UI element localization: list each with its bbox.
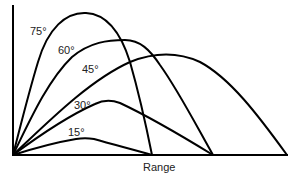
trajectory-45 <box>13 55 287 156</box>
x-axis-label: Range <box>143 161 175 173</box>
trajectory-diagram: 75° 60° 45° 30° 15° Range <box>0 0 300 178</box>
label-15: 15° <box>68 126 85 138</box>
label-45: 45° <box>82 63 99 75</box>
label-60: 60° <box>58 44 75 56</box>
label-30: 30° <box>74 99 91 111</box>
label-75: 75° <box>30 25 47 37</box>
